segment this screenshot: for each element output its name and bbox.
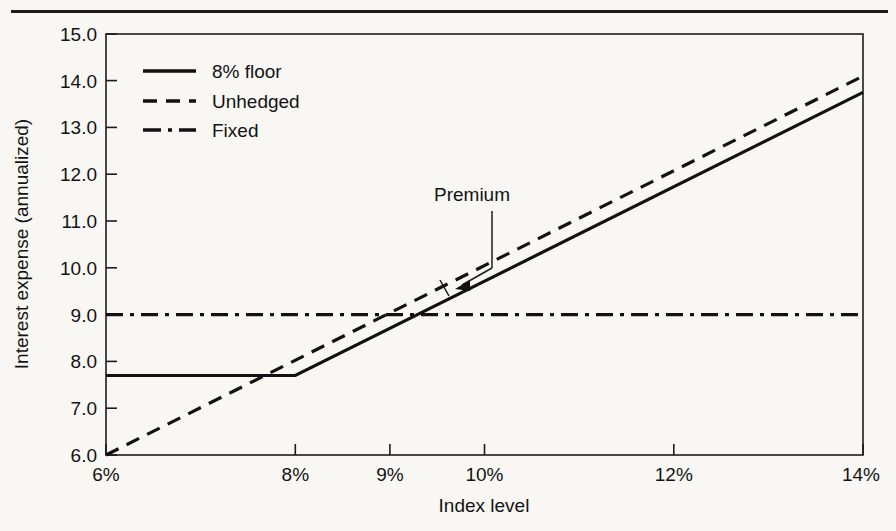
legend-label-8pct-floor: 8% floor [212, 61, 282, 82]
x-axis-ticks [106, 444, 863, 455]
y-tick-label: 11.0 [61, 211, 97, 232]
y-tick-label: 6.0 [71, 445, 97, 466]
y-tick-label: 13.0 [60, 117, 97, 138]
x-tick-label: 8% [282, 464, 310, 485]
x-tick-label: 9% [376, 464, 404, 485]
x-tick-label: 10% [465, 464, 503, 485]
x-tick-label: 6% [92, 464, 120, 485]
x-tick-label: 12% [655, 464, 693, 485]
x-tick-label: 14% [842, 464, 880, 485]
y-axis-tick-labels: 6.0 7.0 8.0 9.0 10.0 11.0 12.0 13.0 14.0… [60, 24, 97, 466]
premium-annotation: Premium [434, 184, 510, 296]
premium-annotation-label: Premium [434, 184, 510, 205]
chart-legend: 8% floor Unhedged Fixed [143, 61, 300, 141]
y-tick-label: 9.0 [71, 305, 97, 326]
y-tick-label: 14.0 [60, 71, 97, 92]
chart-figure: 6.0 7.0 8.0 9.0 10.0 11.0 12.0 13.0 14.0… [0, 0, 896, 531]
legend-label-fixed: Fixed [212, 120, 258, 141]
y-tick-label: 15.0 [60, 24, 97, 45]
x-axis-tick-labels: 6% 8% 9% 10% 12% 14% [92, 464, 880, 485]
y-tick-label: 8.0 [71, 351, 97, 372]
y-axis-ticks [106, 34, 117, 455]
y-axis-title: Interest expense (annualized) [11, 119, 32, 369]
y-tick-label: 10.0 [60, 258, 97, 279]
y-tick-label: 12.0 [60, 164, 97, 185]
y-tick-label: 7.0 [71, 398, 97, 419]
legend-label-unhedged: Unhedged [212, 91, 300, 112]
chart-page: 6.0 7.0 8.0 9.0 10.0 11.0 12.0 13.0 14.0… [0, 0, 896, 531]
x-axis-title: Index level [439, 495, 530, 516]
premium-arrowhead [455, 280, 470, 291]
